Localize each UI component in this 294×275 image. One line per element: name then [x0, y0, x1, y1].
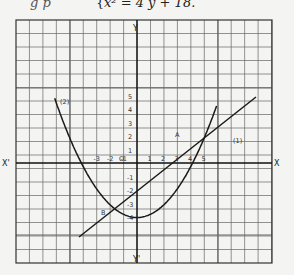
- y-tick-label: -2: [127, 187, 133, 195]
- parabola-label: (2): [60, 98, 69, 106]
- parabola-curve: [55, 98, 217, 217]
- x-tick-label: 5: [202, 155, 206, 163]
- x-tick-label: 1: [148, 155, 152, 163]
- y-tick-label: 2: [128, 133, 132, 141]
- line-curve: [79, 97, 256, 237]
- x-tick-label: -2: [107, 155, 113, 163]
- y-tick-label: 3: [128, 120, 132, 128]
- y-pos-label: Y: [132, 24, 138, 33]
- x-tick-label: -1: [121, 155, 127, 163]
- x-tick-label: 4: [188, 155, 192, 163]
- graph: X' X Y Y' O -3-2-112345 54321-1-2-3-4 A …: [0, 0, 294, 275]
- line-label: (1): [233, 137, 242, 145]
- x-tick-label: 3: [175, 155, 179, 163]
- y-tick-label: 5: [128, 93, 132, 101]
- point-a-label: A: [175, 131, 180, 139]
- y-tick-label: -1: [127, 174, 133, 182]
- x-tick-label: -3: [94, 155, 100, 163]
- y-tick-label: -3: [127, 201, 133, 209]
- y-tick-label: -4: [127, 214, 133, 222]
- y-tick-label: 1: [128, 147, 132, 155]
- x-tick-label: 2: [161, 155, 165, 163]
- x-neg-label: X': [2, 159, 10, 168]
- y-neg-label: Y': [132, 255, 140, 264]
- x-pos-label: X: [274, 159, 280, 168]
- point-b-label: B: [101, 209, 105, 217]
- y-tick-label: 4: [128, 106, 132, 114]
